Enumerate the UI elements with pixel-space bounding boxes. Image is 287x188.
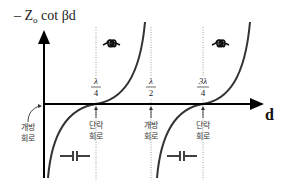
svg-text:회로: 회로 (144, 132, 158, 141)
svg-text:개방: 개방 (144, 120, 159, 130)
x-axis-label: d (265, 106, 274, 123)
short-circuit-label-1: 단락 회로 (89, 120, 104, 141)
short-circuit-label-2: 단락 회로 (196, 120, 211, 141)
open-circuit-label-1: 개방 회로 (21, 122, 36, 143)
cot-curve-2 (157, 22, 250, 178)
svg-text:4: 4 (201, 88, 206, 98)
svg-text:4: 4 (94, 88, 99, 98)
svg-text:λ: λ (93, 76, 98, 86)
open-arrow-2 (149, 106, 153, 118)
svg-text:개방: 개방 (21, 122, 36, 132)
short-arrow-1 (94, 106, 98, 118)
cot-impedance-diagram: – Zo cot βd d λ 4 λ 2 3λ 4 개방 회로 단락 (0, 0, 287, 188)
short-arrow-2 (201, 106, 205, 118)
svg-text:λ: λ (148, 76, 153, 86)
cot-curve-1 (48, 22, 145, 178)
capacitor-icon (60, 151, 90, 161)
svg-text:단락: 단락 (196, 120, 211, 130)
svg-text:3λ: 3λ (198, 76, 208, 86)
capacitor-icon (167, 151, 197, 161)
open-arrow-1 (28, 104, 42, 122)
y-axis-label: – Zo cot βd (13, 8, 76, 25)
svg-text:회로: 회로 (89, 132, 103, 141)
svg-text:회로: 회로 (196, 132, 210, 141)
svg-text:2: 2 (149, 88, 154, 98)
inductor-icon (212, 40, 229, 47)
svg-text:회로: 회로 (21, 134, 35, 143)
open-circuit-label-2: 개방 회로 (144, 120, 159, 141)
svg-text:단락: 단락 (89, 120, 104, 130)
inductor-icon (103, 40, 120, 47)
